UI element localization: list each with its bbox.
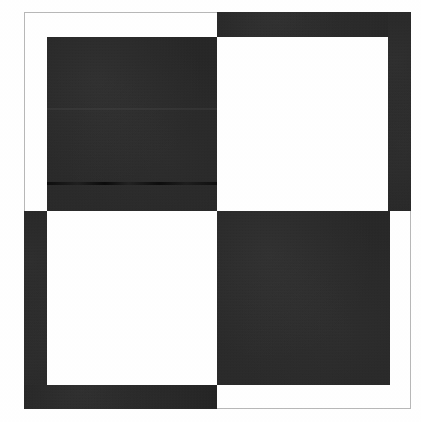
checker-tile-bottom-right bbox=[217, 211, 390, 385]
checker-tile-right-band bbox=[388, 12, 411, 211]
figure-description: Abstract black-and-white geometric figur… bbox=[0, 16, 1, 17]
checker-tile-bottom-band bbox=[24, 385, 217, 409]
checker-tile-top-right-band bbox=[217, 12, 411, 37]
checker-tile-left-band bbox=[24, 211, 47, 409]
checker-tile-top-left bbox=[47, 37, 217, 211]
figure-canvas: Checkerboard pinwheel figure Abstract bl… bbox=[0, 0, 421, 422]
figure-title: Checkerboard pinwheel figure bbox=[0, 21, 1, 22]
